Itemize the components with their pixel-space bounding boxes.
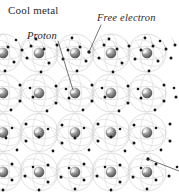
label-free-electron: Free electron — [97, 13, 156, 24]
figure-background — [0, 0, 179, 193]
metal-lattice-figure: Cool metal Proton Free electron — [0, 0, 179, 193]
label-cool-metal: Cool metal — [8, 5, 59, 16]
label-proton: Proton — [27, 31, 57, 42]
lattice-illustration — [0, 0, 179, 193]
